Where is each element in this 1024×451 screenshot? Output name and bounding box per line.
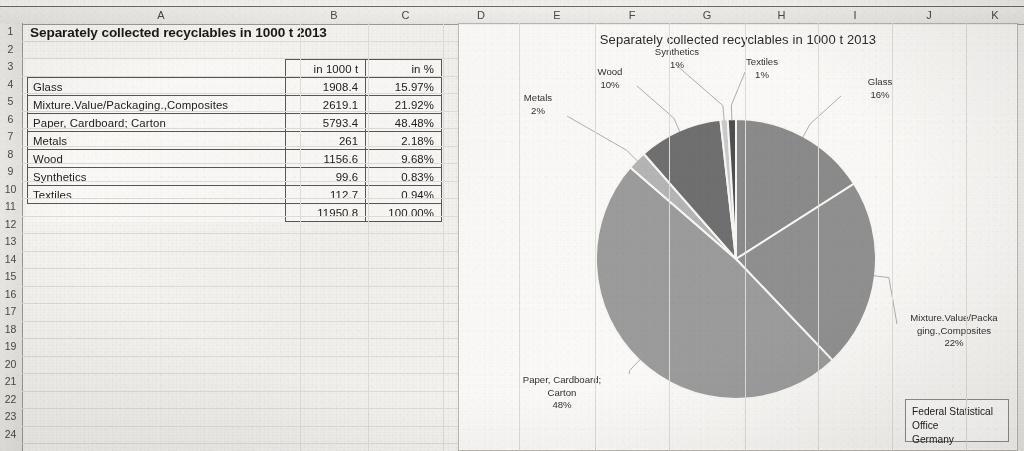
row-header-22[interactable]: 22 (0, 391, 21, 409)
column-gridline (595, 23, 596, 451)
column-header-g[interactable]: G (669, 8, 745, 23)
row-gridline (22, 146, 458, 147)
row-header-3[interactable]: 3 (0, 58, 21, 76)
column-gridline (818, 23, 819, 451)
column-header-d[interactable]: D (443, 8, 519, 23)
column-header-c[interactable]: C (368, 8, 443, 23)
pie-label-paper: Paper, Cardboard; Carton 48% (497, 374, 627, 412)
pie-label-wood: Wood 10% (579, 66, 641, 91)
cell-percent[interactable]: 2.18% (366, 132, 442, 150)
row-header-4[interactable]: 4 (0, 76, 21, 94)
cell-amount[interactable]: 99.6 (286, 168, 366, 186)
column-gridline (745, 23, 746, 451)
chart-credit-box: Federal Statistical Office Germany (905, 399, 1009, 442)
row-header-23[interactable]: 23 (0, 408, 21, 426)
row-header-1[interactable]: 1 (0, 23, 21, 41)
row-header-16[interactable]: 16 (0, 286, 21, 304)
row-gridline (22, 41, 458, 42)
row-header-24[interactable]: 24 (0, 426, 21, 444)
pie-label-synthetics: Synthetics 1% (639, 46, 715, 71)
row-gridline (22, 111, 458, 112)
row-header-11[interactable]: 11 (0, 198, 21, 216)
row-header-6[interactable]: 6 (0, 111, 21, 129)
row-header-7[interactable]: 7 (0, 128, 21, 146)
pie-chart[interactable]: Synthetics 1% Textiles 1% Wood 10% Metal… (459, 24, 1017, 450)
cell-total-label (28, 204, 286, 222)
row-gridline (22, 163, 458, 164)
chart-panel[interactable]: Separately collected recyclables in 1000… (458, 23, 1018, 451)
column-gridline (519, 23, 520, 451)
table-row[interactable]: Textiles 112.7 0.94% (28, 186, 442, 204)
credit-line-1: Federal Statistical Office (912, 405, 1002, 433)
column-gridline (892, 23, 893, 451)
column-gridline (669, 23, 670, 451)
row-gridline (22, 391, 458, 392)
cell-amount[interactable]: 261 (286, 132, 366, 150)
pie-label-textiles: Textiles 1% (727, 56, 797, 81)
row-gridline (22, 303, 458, 304)
column-header-f[interactable]: F (595, 8, 669, 23)
leader-line (567, 116, 638, 161)
cell-label[interactable]: Wood (28, 150, 286, 168)
row-header-17[interactable]: 17 (0, 303, 21, 321)
column-header-h[interactable]: H (745, 8, 818, 23)
leader-line (803, 96, 841, 138)
row-gridline (22, 408, 458, 409)
row-header-9[interactable]: 9 (0, 163, 21, 181)
column-header-e[interactable]: E (519, 8, 595, 23)
row-gridline (22, 181, 458, 182)
row-header-12[interactable]: 12 (0, 216, 21, 234)
column-header-i[interactable]: I (818, 8, 892, 23)
cell-label[interactable]: Synthetics (28, 168, 286, 186)
row-gridline (22, 93, 458, 94)
column-gridline (300, 23, 301, 451)
column-header-b[interactable]: B (300, 8, 368, 23)
leader-line (637, 86, 680, 132)
row-header-19[interactable]: 19 (0, 338, 21, 356)
row-gridline (22, 443, 458, 444)
cell-label[interactable]: Metals (28, 132, 286, 150)
cell-total-percent[interactable]: 100.00% (366, 204, 442, 222)
row-gridline (22, 338, 458, 339)
row-header-5[interactable]: 5 (0, 93, 21, 111)
table-row[interactable]: Metals 261 2.18% (28, 132, 442, 150)
cell-percent[interactable]: 0.83% (366, 168, 442, 186)
row-header-10[interactable]: 10 (0, 181, 21, 199)
row-header-21[interactable]: 21 (0, 373, 21, 391)
column-gridline (368, 23, 369, 451)
row-header-8[interactable]: 8 (0, 146, 21, 164)
pie-label-glass: Glass 16% (847, 76, 913, 101)
row-gridline (22, 286, 458, 287)
leader-line (629, 359, 640, 374)
cell-percent[interactable]: 9.68% (366, 150, 442, 168)
cell-percent[interactable]: 0.94% (366, 186, 442, 204)
row-header-14[interactable]: 14 (0, 251, 21, 269)
column-header-k[interactable]: K (966, 8, 1024, 23)
leader-line (874, 276, 897, 324)
row-gridline (22, 58, 458, 59)
cell-amount[interactable]: 1156.6 (286, 150, 366, 168)
row-header-gutter[interactable]: 123456789101112131415161718192021222324 (0, 23, 23, 451)
column-header-j[interactable]: J (892, 8, 966, 23)
row-header-18[interactable]: 18 (0, 321, 21, 339)
column-header-a[interactable]: A (22, 8, 300, 23)
row-header-13[interactable]: 13 (0, 233, 21, 251)
cell-label[interactable]: Textiles (28, 186, 286, 204)
row-header-2[interactable]: 2 (0, 41, 21, 59)
column-gridline (443, 23, 444, 451)
row-header-15[interactable]: 15 (0, 268, 21, 286)
pie-label-metals: Metals 2% (507, 92, 569, 117)
table-row[interactable]: Synthetics 99.6 0.83% (28, 168, 442, 186)
row-gridline (22, 76, 458, 77)
row-header-20[interactable]: 20 (0, 356, 21, 374)
credit-line-2: Germany (912, 433, 1002, 447)
leader-line (675, 64, 724, 121)
table-total-row[interactable]: 11950.8 100.00% (28, 204, 442, 222)
table-row[interactable]: Wood 1156.6 9.68% (28, 150, 442, 168)
row-gridline (22, 233, 458, 234)
cell-total-amount[interactable]: 11950.8 (286, 204, 366, 222)
cell-amount[interactable]: 112.7 (286, 186, 366, 204)
spreadsheet-sheet: ABCDEFGHIJK 1234567891011121314151617181… (0, 0, 1024, 451)
pie-slice-group[interactable] (596, 119, 876, 399)
page-title: Separately collected recyclables in 1000… (30, 25, 327, 40)
